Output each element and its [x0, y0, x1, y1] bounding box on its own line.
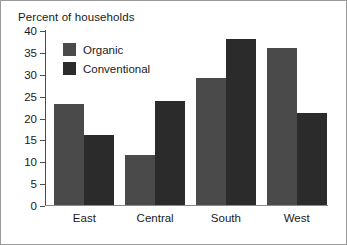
x-axis-label-south: South — [211, 212, 241, 224]
bar-group: South — [196, 30, 256, 205]
y-tick-label: 35 — [24, 47, 37, 59]
chart-title: Percent of households — [18, 11, 135, 23]
bar-group: West — [267, 30, 327, 205]
chart-figure: Percent of households 0510152025303540 E… — [0, 0, 347, 245]
y-tick-mark — [40, 184, 45, 185]
x-axis-label-east: East — [73, 212, 96, 224]
y-tick-mark — [40, 140, 45, 141]
x-axis-label-west: West — [284, 212, 310, 224]
y-tick-mark — [40, 206, 45, 207]
y-tick-label: 25 — [24, 91, 37, 103]
y-tick-label: 5 — [31, 178, 37, 190]
bar-organic-east — [54, 104, 84, 205]
legend-label-conventional: Conventional — [83, 63, 150, 75]
legend-item-organic: Organic — [63, 43, 150, 56]
legend-item-conventional: Conventional — [63, 62, 150, 75]
bar-conventional-west — [297, 113, 327, 205]
bar-conventional-central — [155, 101, 185, 205]
y-tick-mark — [40, 162, 45, 163]
y-tick-label: 10 — [24, 156, 37, 168]
chart-legend: OrganicConventional — [63, 43, 150, 81]
y-tick-mark — [40, 97, 45, 98]
y-tick-label: 40 — [24, 25, 37, 37]
y-axis-line — [45, 30, 46, 206]
y-tick-mark — [40, 119, 45, 120]
bar-organic-central — [125, 155, 155, 205]
bar-conventional-south — [226, 39, 256, 205]
legend-swatch-organic — [63, 43, 76, 56]
bar-organic-west — [267, 48, 297, 206]
y-tick-label: 15 — [24, 134, 37, 146]
y-tick-label: 20 — [24, 113, 37, 125]
y-tick-mark — [40, 75, 45, 76]
y-tick-mark — [40, 53, 45, 54]
y-tick-mark — [40, 31, 45, 32]
x-axis-line — [45, 205, 328, 206]
bar-organic-south — [196, 78, 226, 205]
legend-swatch-conventional — [63, 62, 76, 75]
x-axis-label-central: Central — [137, 212, 174, 224]
y-tick-label: 30 — [24, 69, 37, 81]
y-tick-label: 0 — [31, 200, 37, 212]
legend-label-organic: Organic — [83, 44, 123, 56]
bar-conventional-east — [84, 135, 114, 205]
